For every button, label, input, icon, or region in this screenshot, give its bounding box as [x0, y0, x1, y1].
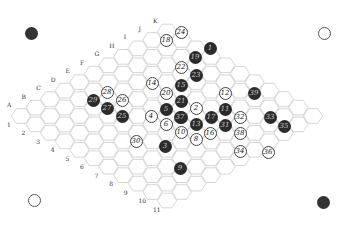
column-label-C: C	[36, 84, 41, 91]
black-stone-31: 31	[219, 119, 232, 132]
black-stone-27: 27	[101, 102, 114, 115]
white-stone-38: 38	[234, 127, 247, 140]
black-stone-19: 19	[189, 51, 202, 64]
white-stone-22: 22	[175, 61, 188, 74]
black-stone-9: 9	[174, 162, 187, 175]
row-label-6: 6	[80, 163, 84, 170]
row-label-2: 2	[22, 129, 26, 136]
column-label-D: D	[51, 76, 56, 83]
row-label-7: 7	[95, 172, 99, 179]
row-label-11: 11	[153, 206, 161, 213]
hex-cell-A9[interactable]	[128, 176, 147, 191]
column-label-B: B	[22, 93, 26, 100]
black-stone-21: 21	[175, 95, 188, 108]
white-stone-32: 32	[234, 111, 247, 124]
white-stone-6: 6	[160, 118, 173, 131]
white-stone-28: 28	[101, 86, 114, 99]
white-stone-34: 34	[234, 145, 247, 158]
column-label-F: F	[80, 59, 84, 66]
corner-marker-white-top-right	[318, 27, 331, 40]
row-label-9: 9	[124, 189, 128, 196]
column-label-K: K	[153, 17, 157, 24]
white-stone-14: 14	[146, 77, 159, 90]
hex-cell-K11[interactable]	[303, 109, 322, 124]
column-label-E: E	[65, 67, 69, 74]
corner-marker-black-bottom-right	[317, 196, 330, 209]
black-stone-3: 3	[159, 140, 172, 153]
black-stone-13: 13	[190, 118, 203, 131]
black-stone-17: 17	[205, 111, 218, 124]
white-stone-20: 20	[160, 87, 173, 100]
row-label-5: 5	[65, 155, 69, 162]
black-stone-5: 5	[160, 103, 173, 116]
hex-cell-B6[interactable]	[99, 143, 118, 158]
hex-cell-A1[interactable]	[11, 109, 30, 124]
corner-marker-white-bottom-left	[28, 194, 41, 207]
black-stone-35: 35	[278, 120, 291, 133]
black-stone-33: 33	[264, 111, 277, 124]
row-label-1: 1	[7, 121, 11, 128]
black-stone-37: 37	[174, 111, 187, 124]
white-stone-26: 26	[116, 94, 129, 107]
white-stone-16: 16	[204, 127, 217, 140]
white-stone-36: 36	[262, 146, 275, 159]
row-label-4: 4	[51, 146, 55, 153]
white-stone-4: 4	[145, 110, 158, 123]
row-label-8: 8	[109, 180, 113, 187]
column-label-H: H	[109, 42, 114, 49]
black-stone-15: 15	[175, 79, 188, 92]
white-stone-18: 18	[160, 34, 173, 47]
hex-cell-B10[interactable]	[157, 176, 176, 191]
white-stone-10: 10	[175, 126, 188, 139]
column-label-J: J	[138, 25, 140, 32]
black-stone-11: 11	[219, 103, 232, 116]
row-label-10: 10	[138, 197, 146, 204]
hex-cell-I9[interactable]	[245, 109, 264, 124]
white-stone-12: 12	[219, 87, 232, 100]
column-label-A: A	[7, 101, 11, 108]
black-stone-23: 23	[190, 69, 203, 82]
row-label-3: 3	[36, 138, 40, 145]
column-label-G: G	[95, 50, 100, 57]
black-stone-1: 1	[204, 42, 217, 55]
white-stone-30: 30	[130, 135, 143, 148]
black-stone-29: 29	[87, 94, 100, 107]
column-label-I: I	[124, 33, 126, 40]
white-stone-8: 8	[190, 133, 203, 146]
black-stone-25: 25	[116, 110, 129, 123]
corner-marker-black-top-left	[25, 27, 38, 40]
hex-cell-A5[interactable]	[70, 143, 89, 158]
white-stone-2: 2	[190, 102, 203, 115]
white-stone-24: 24	[175, 26, 188, 39]
black-stone-39: 39	[248, 87, 261, 100]
hex-cell-K5[interactable]	[216, 58, 235, 73]
